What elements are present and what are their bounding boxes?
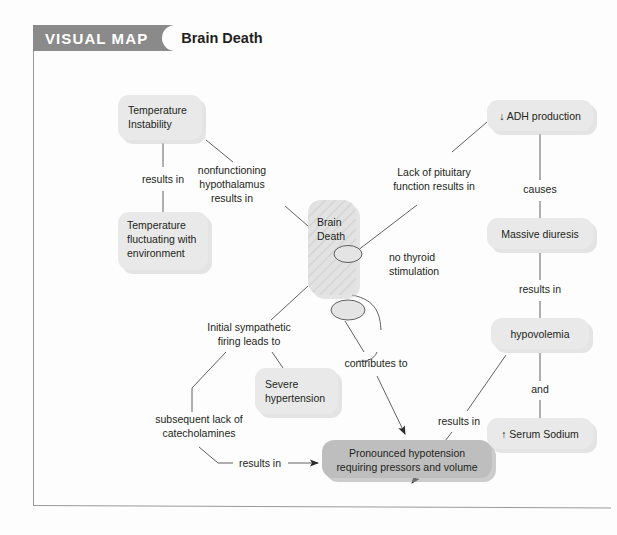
edge-label-results-in-hypovolemia: results in: [438, 415, 480, 427]
hypovolemia-label: hypovolemia: [511, 328, 570, 340]
severe-hypertension-box: [255, 368, 338, 414]
serum-sodium-label: ↑ Serum Sodium: [501, 428, 579, 440]
temperature-fluctuating-line-1: fluctuating with: [127, 233, 197, 245]
link-contributes-lower: [377, 376, 405, 434]
edge-label-sympathetic-0: Initial sympathetic: [207, 321, 290, 333]
edge-label-pituitary-0: Lack of pituitary: [397, 166, 471, 178]
edge-label-thyroid-0: no thyroid: [389, 251, 435, 263]
temperature-fluctuating-line-0: Temperature: [127, 219, 186, 231]
link-sympathetic-upper: [271, 286, 308, 320]
node-hypovolemia[interactable]: hypovolemia: [491, 318, 593, 353]
edge-label-results-in-diuresis: results in: [519, 283, 561, 295]
severe-hypertension-line-0: Severe: [265, 378, 298, 390]
pronounced-hypotension-line-0: Pronounced hypotension: [349, 447, 465, 459]
link-hypovolemia-hypotension-upper: [467, 355, 506, 411]
edge-label-thyroid-1: stimulation: [389, 265, 439, 277]
temperature-instability-line-1: Instability: [128, 118, 173, 130]
thyroid-ellipse[interactable]: [331, 300, 365, 320]
edge-label-catecholamines-0: subsequent lack of: [155, 413, 243, 425]
edge-label-catecholamines-1: catecholamines: [163, 427, 236, 439]
massive-diuresis-label: Massive diuresis: [501, 228, 579, 240]
edge-label-pituitary-1: function results in: [393, 180, 475, 192]
node-temperature-instability[interactable]: Temperature Instability: [118, 95, 206, 144]
link-hypothalamus-upper: [206, 140, 233, 162]
node-massive-diuresis[interactable]: Massive diuresis: [487, 218, 597, 253]
edge-label-nonfunctioning-0: nonfunctioning: [198, 164, 266, 176]
brain-death-label-line1: Brain: [317, 216, 342, 228]
link-hypothalamus-lower: [285, 206, 308, 226]
edge-label-sympathetic-1: firing leads to: [218, 335, 281, 347]
link-catecholamines-elbow: [192, 352, 226, 412]
edge-label-nonfunctioning-2: results in: [211, 192, 253, 204]
temperature-instability-line-0: Temperature: [128, 104, 187, 116]
link-severe-hypertension: [272, 352, 283, 368]
node-severe-hypertension[interactable]: Severe hypertension: [255, 368, 342, 418]
edge-label-results-in-temperature: results in: [142, 173, 184, 185]
edge-label-nonfunctioning-1: hypothalamus: [199, 178, 264, 190]
link-pituitary-upper: [452, 122, 487, 152]
brain-death-label-line2: Death: [317, 230, 345, 242]
link-catecholamines-results: [199, 447, 233, 463]
node-temperature-fluctuating[interactable]: Temperature fluctuating with environment: [118, 212, 212, 274]
pituitary-ellipse[interactable]: [334, 246, 362, 263]
node-brain-death[interactable]: Brain Death: [308, 200, 365, 320]
page-canvas: VISUAL MAP Brain Death: [0, 0, 617, 535]
pronounced-hypotension-line-1: requiring pressors and volume: [336, 461, 477, 473]
edge-label-contributes-to: contributes to: [344, 357, 407, 369]
brain-death-concept-map: Brain Death Temperature Instability Temp…: [0, 0, 617, 535]
temperature-fluctuating-line-2: environment: [127, 247, 185, 259]
severe-hypertension-line-1: hypertension: [265, 392, 325, 404]
adh-production-label: ↓ ADH production: [499, 110, 581, 122]
link-pituitary-lower: [353, 205, 417, 254]
node-serum-sodium[interactable]: ↑ Serum Sodium: [487, 418, 597, 453]
edge-label-and: and: [531, 383, 549, 395]
link-contributes-upper: [345, 321, 364, 352]
edge-label-results-in-catecholamines: results in: [239, 457, 281, 469]
edge-label-causes: causes: [523, 183, 556, 195]
node-pronounced-hypotension[interactable]: Pronounced hypotension requiring pressor…: [322, 440, 496, 482]
node-adh-production[interactable]: ↓ ADH production: [487, 100, 597, 135]
